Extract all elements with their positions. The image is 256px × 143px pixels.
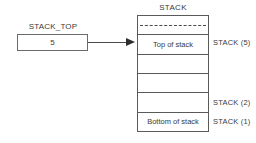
stack-cell	[138, 93, 208, 112]
stack-diagram: STACK_TOP 5 STACK Top of stackBottom of …	[0, 0, 256, 143]
stack-index-label: STACK (2)	[213, 98, 251, 107]
stack-cell: Top of stack	[138, 35, 208, 54]
stack-index-label: STACK (1)	[213, 117, 251, 126]
stack-cell-label: Top of stack	[153, 40, 193, 49]
pointer-variable-label: STACK_TOP	[18, 22, 88, 31]
stack-index-label: STACK (5)	[213, 38, 251, 47]
stack-cell-dashed-separator	[140, 25, 206, 26]
stack-cell	[138, 74, 208, 93]
stack-cell	[138, 16, 208, 35]
stack-cell-label: Bottom of stack	[147, 117, 199, 126]
stack-column: Top of stackBottom of stack	[137, 15, 209, 132]
pointer-variable-box: 5	[17, 34, 88, 51]
stack-cell: Bottom of stack	[138, 113, 208, 131]
stack-title: STACK	[137, 3, 209, 12]
pointer-arrow-head-icon	[126, 38, 135, 46]
pointer-variable-value: 5	[18, 35, 87, 50]
stack-cell	[138, 55, 208, 74]
